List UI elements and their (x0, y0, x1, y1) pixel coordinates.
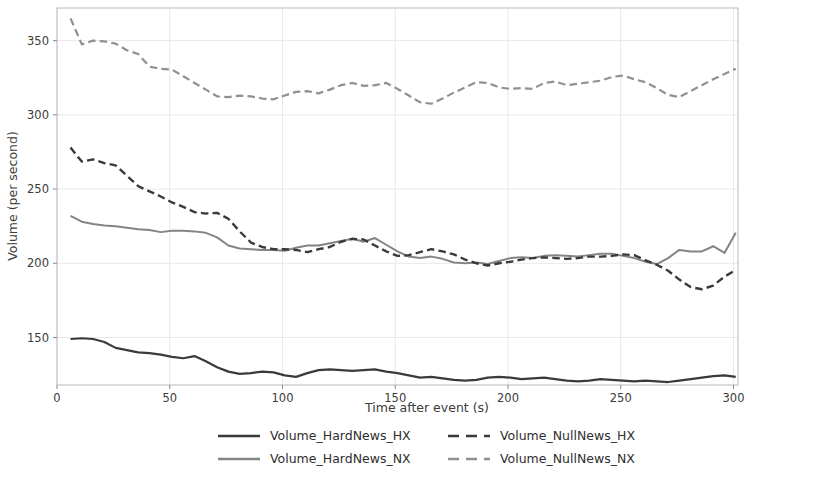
y-tick-label: 250 (27, 182, 49, 196)
legend-label: Volume_NullNews_HX (500, 428, 635, 443)
y-tick-label: 200 (27, 256, 49, 270)
legend-label: Volume_HardNews_HX (270, 428, 411, 443)
y-tick-label: 150 (27, 331, 49, 345)
x-tick-label: 200 (497, 391, 519, 405)
x-tick-label: 300 (723, 391, 745, 405)
x-tick-label: 250 (610, 391, 632, 405)
x-tick-label: 50 (162, 391, 177, 405)
volume-timeseries-chart: 050100150200250300 150200250300350 Time … (0, 0, 815, 477)
legend-label: Volume_NullNews_NX (500, 451, 635, 466)
legend-label: Volume_HardNews_NX (270, 451, 411, 466)
x-tick-label: 100 (272, 391, 294, 405)
y-tick-label: 350 (27, 34, 49, 48)
x-tick-label: 0 (53, 391, 60, 405)
x-axis-label: Time after event (s) (364, 400, 489, 415)
y-axis-label: Volume (per second) (5, 131, 20, 261)
y-tick-label: 300 (27, 108, 49, 122)
chart-figure: 050100150200250300 150200250300350 Time … (0, 0, 815, 477)
